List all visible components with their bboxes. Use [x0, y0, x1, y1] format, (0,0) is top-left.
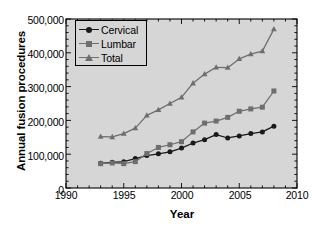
- data-point-square: [133, 159, 138, 164]
- data-point-square: [144, 151, 149, 156]
- legend-marker-circle-icon: [79, 24, 99, 36]
- x-tick-label: 2010: [277, 189, 317, 201]
- chart-legend: Cervical Lumbar Total: [75, 20, 147, 66]
- data-point-circle: [179, 146, 184, 151]
- x-tick-label: 1995: [104, 189, 144, 201]
- legend-marker-square-icon: [79, 38, 99, 50]
- legend-marker-triangle-icon: [79, 52, 99, 64]
- legend-label: Lumbar: [101, 38, 136, 50]
- data-point-square: [237, 109, 242, 114]
- legend-item-total: Total: [79, 51, 123, 64]
- data-point-square: [225, 115, 230, 120]
- data-point-circle: [271, 124, 276, 129]
- data-point-circle: [191, 141, 196, 146]
- data-point-square: [260, 105, 265, 110]
- figure: Annual fusion procedures Year 500,000 40…: [0, 0, 320, 229]
- data-point-circle: [156, 151, 161, 156]
- data-point-square: [271, 88, 276, 93]
- data-point-square: [248, 106, 253, 111]
- data-point-circle: [260, 129, 265, 134]
- y-tick-label: 300,000: [12, 83, 64, 93]
- legend-item-lumbar: Lumbar: [79, 37, 136, 50]
- y-tick-label: 100,000: [12, 151, 64, 161]
- data-point-circle: [214, 132, 219, 137]
- data-point-circle: [167, 149, 172, 154]
- data-point-circle: [237, 133, 242, 138]
- data-point-square: [121, 161, 126, 166]
- data-point-square: [202, 121, 207, 126]
- data-point-square: [191, 129, 196, 134]
- x-tick-label: 2005: [220, 189, 260, 201]
- data-point-circle: [225, 135, 230, 140]
- data-point-square: [98, 161, 103, 166]
- y-tick-label: 200,000: [12, 117, 64, 127]
- legend-item-cervical: Cervical: [79, 23, 138, 36]
- legend-label: Total: [101, 52, 123, 64]
- data-point-circle: [248, 131, 253, 136]
- data-point-circle: [202, 137, 207, 142]
- data-point-square: [214, 119, 219, 124]
- x-tick-label: 2000: [162, 189, 202, 201]
- data-point-square: [167, 142, 172, 147]
- data-point-square: [110, 160, 115, 165]
- legend-label: Cervical: [101, 24, 138, 36]
- data-point-square: [156, 145, 161, 150]
- x-tick-label: 1990: [46, 189, 86, 201]
- y-tick-label: 400,000: [12, 49, 64, 59]
- x-axis-label: Year: [66, 208, 298, 220]
- y-tick-label: 500,000: [12, 15, 64, 25]
- data-point-square: [179, 139, 184, 144]
